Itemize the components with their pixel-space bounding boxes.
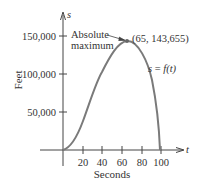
rocket-height-chart: s t 150,000 100,000 50,000 20 40 60 80 1… — [0, 0, 201, 193]
x-tick-label-80: 80 — [137, 157, 148, 168]
x-axis-var-label: t — [186, 144, 190, 155]
max-point-label: (65, 143,655) — [132, 33, 189, 45]
curve-label-eq: = — [152, 63, 163, 74]
annotation-absolute: Absolute — [71, 29, 109, 40]
x-axis-title: Seconds — [94, 168, 131, 180]
curve-label-f: f(t) — [163, 63, 176, 75]
curve-label: s = f(t) — [148, 63, 177, 75]
x-tick-label-40: 40 — [97, 157, 108, 168]
y-axis-title: Feet — [12, 71, 24, 90]
y-tick-label-150000: 150,000 — [22, 31, 56, 42]
y-tick-label-50000: 50,000 — [27, 107, 56, 118]
height-curve — [63, 41, 160, 150]
max-point-marker — [125, 39, 129, 43]
x-tick-label-100: 100 — [153, 157, 169, 168]
annotation-maximum: maximum — [71, 40, 114, 51]
x-tick-label-20: 20 — [78, 157, 89, 168]
y-axis-var-label: s — [67, 9, 71, 20]
x-tick-label-60: 60 — [117, 157, 128, 168]
y-tick-label-100000: 100,000 — [22, 69, 56, 80]
